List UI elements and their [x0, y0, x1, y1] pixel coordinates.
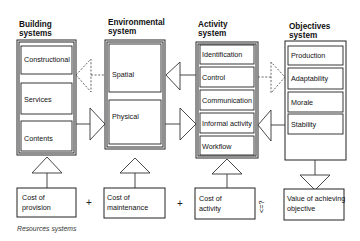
svg-text:system: system [108, 27, 136, 36]
svg-text:Value of achieving: Value of achieving [287, 194, 345, 203]
activity-system-box: Identification Control Communication Inf… [196, 42, 258, 158]
svg-text:Cost of: Cost of [22, 193, 45, 202]
svg-text:Constructional: Constructional [24, 55, 70, 64]
dashed-arrow-activity-to-objectives [258, 62, 285, 93]
arrow-activity-cost-to-activity [212, 159, 242, 188]
dashed-arrow-spatial-to-constructional [76, 59, 105, 92]
item-constructional: Constructional [21, 46, 72, 74]
plus-sign: + [177, 198, 183, 209]
svg-text:Building: Building [19, 20, 52, 29]
svg-text:systems: systems [19, 29, 52, 38]
svg-text:Workflow: Workflow [202, 142, 232, 151]
svg-text:Production: Production [291, 51, 325, 60]
svg-text:Cost of: Cost of [199, 194, 222, 203]
item-identification: Identification [200, 45, 254, 64]
arrow-provision-to-building [32, 157, 62, 188]
item-stability: Stability [288, 114, 343, 134]
systems-diagram: Building systems Environmental system Ac… [0, 0, 360, 241]
svg-text:Control: Control [202, 73, 226, 82]
svg-text:Physical: Physical [112, 112, 139, 121]
item-spatial: Spatial [109, 44, 161, 92]
svg-text:Environmental: Environmental [108, 18, 165, 27]
item-informal-activity: Informal activity [200, 113, 254, 133]
environmental-system-box: Spatial Physical [105, 40, 165, 149]
svg-text:Cost of: Cost of [107, 193, 130, 202]
arrow-building-to-physical [76, 108, 105, 140]
svg-text:Services: Services [24, 95, 52, 104]
arrow-activity-to-spatial [166, 62, 196, 90]
comparison-symbol: <=? [257, 201, 266, 213]
arrow-objectives-to-activity [258, 110, 285, 141]
objectives-system-heading: Objectives system [289, 22, 331, 40]
building-systems-heading: Building systems [19, 20, 52, 38]
svg-text:Contents: Contents [24, 134, 53, 143]
item-services: Services [21, 83, 72, 114]
cost-of-provision-box: Cost of provision [17, 188, 76, 217]
activity-system-heading: Activity system [198, 20, 228, 38]
svg-text:Spatial: Spatial [112, 70, 134, 79]
item-workflow: Workflow [200, 136, 254, 155]
svg-text:Communication: Communication [202, 96, 252, 105]
environmental-system-heading: Environmental system [108, 18, 165, 36]
item-production: Production [288, 46, 343, 65]
svg-text:Stability: Stability [291, 120, 317, 129]
svg-text:Identification: Identification [202, 50, 242, 59]
svg-text:Adaptability: Adaptability [291, 74, 329, 83]
svg-text:Morale: Morale [291, 98, 313, 107]
svg-text:activity: activity [199, 204, 221, 213]
item-contents: Contents [21, 121, 72, 151]
item-communication: Communication [200, 90, 254, 110]
plus-sign: + [86, 197, 92, 208]
arrow-maintenance-to-environmental [120, 158, 150, 188]
svg-text:Activity: Activity [198, 20, 228, 29]
svg-text:provision: provision [22, 203, 51, 212]
resources-systems-caption: Resources systems [17, 225, 77, 233]
item-adaptability: Adaptability [288, 68, 343, 89]
svg-text:Informal activity: Informal activity [202, 119, 252, 128]
arrow-objectives-to-value [300, 160, 330, 190]
item-morale: Morale [288, 92, 343, 112]
svg-text:maintenance: maintenance [107, 203, 148, 212]
value-of-achieving-objective-box: Value of achieving objective [284, 189, 345, 220]
item-control: Control [200, 67, 254, 87]
svg-text:system: system [198, 29, 226, 38]
svg-text:objective: objective [287, 204, 315, 213]
arrow-physical-to-activity [165, 108, 196, 140]
building-systems-box: Constructional Services Contents [17, 40, 76, 155]
item-physical: Physical [109, 100, 161, 144]
cost-of-activity-box: Cost of activity [195, 188, 255, 219]
svg-text:Objectives: Objectives [289, 22, 331, 31]
objectives-system-box: Production Adaptability Morale Stability [285, 41, 346, 160]
cost-of-maintenance-box: Cost of maintenance [104, 188, 165, 218]
svg-text:system: system [289, 31, 317, 40]
